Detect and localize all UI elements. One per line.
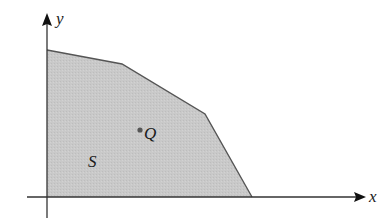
region-s-label: S — [88, 152, 97, 171]
point-q-label: Q — [144, 124, 156, 143]
diagram-svg: y x Q S — [0, 0, 390, 223]
diagram-canvas: y x Q S — [0, 0, 390, 223]
x-axis-label: x — [368, 187, 377, 206]
point-q-dot — [137, 127, 142, 132]
y-axis-label: y — [54, 9, 64, 28]
